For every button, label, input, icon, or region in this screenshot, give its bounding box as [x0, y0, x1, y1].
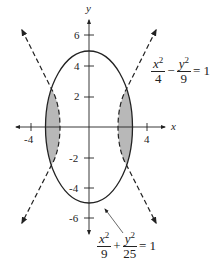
denominator: 9 — [101, 247, 108, 261]
operator: − — [167, 63, 174, 79]
y-tick-label-neg6: -6 — [69, 213, 78, 224]
ellipse-equation: x2 9 + y2 25 = 1 — [96, 231, 157, 260]
x-tick-label-4: 4 — [144, 134, 150, 145]
denominator: 25 — [123, 247, 136, 261]
y-tick-label-4: 4 — [74, 61, 80, 72]
exponent: 2 — [105, 230, 110, 240]
y-tick-label-neg4: -4 — [69, 183, 78, 194]
graph-canvas — [0, 0, 220, 266]
hyperbola-term2: y2 9 — [177, 56, 191, 85]
hyperbola-equation: x2 4 − y2 9 = 1 — [150, 56, 211, 85]
hyperbola-term1: x2 4 — [151, 56, 165, 85]
ellipse-term2: y2 25 — [123, 231, 137, 260]
exponent: 2 — [130, 230, 135, 240]
operator: + — [113, 238, 120, 254]
exponent: 2 — [184, 55, 189, 65]
equals-rhs: = 1 — [139, 238, 156, 254]
x-tick-label-neg4: -4 — [24, 134, 33, 145]
exponent: 2 — [159, 55, 164, 65]
y-tick-label-6: 6 — [74, 30, 80, 41]
y-tick-label-2: 2 — [74, 91, 80, 102]
x-axis-label: x — [171, 121, 176, 132]
denominator: 4 — [155, 72, 162, 86]
ellipse-term1: x2 9 — [97, 231, 111, 260]
denominator: 9 — [181, 72, 188, 86]
y-tick-label-neg2: -2 — [69, 153, 78, 164]
equals-rhs: = 1 — [193, 63, 210, 79]
y-axis-label: y — [86, 3, 91, 14]
